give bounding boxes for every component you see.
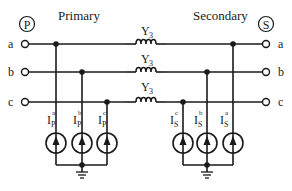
- primary-terminal-a-label: a: [8, 37, 14, 51]
- current-source-secondary-a: I S a: [220, 109, 243, 153]
- circuit-diagram: Primary Secondary P S a b c a b c: [0, 0, 292, 191]
- svg-text:3: 3: [149, 87, 153, 96]
- svg-text:P: P: [51, 120, 56, 129]
- svg-text:P: P: [77, 120, 82, 129]
- secondary-terminal-a-label: a: [278, 37, 284, 51]
- primary-title: Primary: [58, 8, 100, 23]
- svg-text:c: c: [103, 109, 106, 117]
- svg-text:b: b: [78, 109, 82, 117]
- svg-text:S: S: [174, 120, 178, 129]
- svg-text:S: S: [198, 120, 202, 129]
- secondary-title: Secondary: [193, 8, 248, 23]
- svg-text:S: S: [263, 18, 270, 32]
- svg-text:b: b: [199, 109, 203, 117]
- current-source-secondary-b: I S b: [194, 109, 217, 153]
- svg-text:a: a: [225, 109, 229, 117]
- svg-text:S: S: [224, 120, 228, 129]
- inductor-c: Y 3: [136, 80, 156, 102]
- svg-text:c: c: [175, 109, 178, 117]
- primary-port-icon: P: [20, 17, 35, 32]
- secondary-terminal-c-label: c: [278, 95, 283, 109]
- svg-text:3: 3: [149, 31, 153, 40]
- secondary-port-icon: S: [259, 17, 274, 32]
- current-source-secondary-c: I S c: [170, 109, 193, 153]
- svg-text:P: P: [24, 18, 31, 32]
- primary-terminal-b-label: b: [8, 65, 14, 79]
- svg-text:P: P: [102, 120, 107, 129]
- secondary-terminal-b-label: b: [278, 65, 284, 79]
- primary-terminal-c-label: c: [8, 95, 13, 109]
- inductor-b: Y 3: [136, 52, 156, 72]
- svg-text:3: 3: [149, 59, 153, 68]
- ground-icon-secondary: [201, 172, 213, 178]
- ground-icon-primary: [76, 172, 88, 178]
- inductor-a: Y 3: [136, 24, 156, 44]
